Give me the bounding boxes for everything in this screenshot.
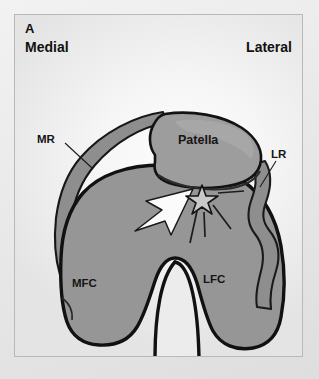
label-lfc: LFC <box>203 273 225 285</box>
figure-page: A Medial Lateral <box>0 0 319 379</box>
label-mr: MR <box>37 133 56 145</box>
label-lr: LR <box>271 148 287 160</box>
intercondylar-notch <box>155 263 199 357</box>
knee-axial-illustration: MR LR Patella MFC LFC <box>15 15 303 357</box>
figure-panel: A Medial Lateral <box>14 14 303 357</box>
label-mfc: MFC <box>72 277 97 289</box>
label-patella: Patella <box>178 133 219 147</box>
patellar-tendon-line-center <box>204 212 205 237</box>
